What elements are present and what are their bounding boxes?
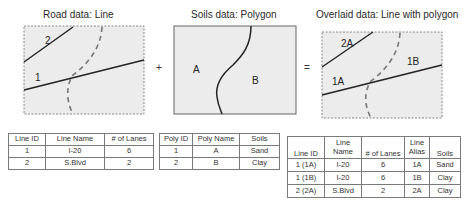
table-row: 1 (1A) I-20 6 1A Sand <box>288 159 461 172</box>
cell: Clay <box>430 172 461 185</box>
header-poly-id: Poly ID <box>160 134 193 146</box>
road-line-map: 2 1 <box>23 25 146 116</box>
cell: Sand <box>430 159 461 172</box>
overlay-map: 2A 1A 1B <box>321 31 444 120</box>
header-line-id: Line ID <box>9 134 46 146</box>
soils-label-B: B <box>252 75 259 86</box>
cell: B <box>193 158 240 170</box>
table-row: 1 A Sand <box>160 146 280 158</box>
poly-attribute-table: Poly ID Poly Name Soils 1 A Sand 2 B Cla… <box>159 133 280 170</box>
soils-label-A: A <box>193 64 200 75</box>
table-row: 2 (2A) S.Blvd 2 2A Clay <box>288 185 461 198</box>
header-line-name: Line Name <box>325 137 362 159</box>
overlay-label-2A: 2A <box>341 38 354 49</box>
cell: Clay <box>430 185 461 198</box>
road-label-1: 1 <box>35 72 41 83</box>
cell: I-20 <box>325 159 362 172</box>
cell: I-20 <box>46 146 105 158</box>
cell: S.Blvd <box>325 185 362 198</box>
header-line-name: Line Name <box>46 134 105 146</box>
overlay-attribute-table: Line ID Line Name # of Lanes Line Alias … <box>287 136 461 198</box>
cell: 1 (1B) <box>288 172 325 185</box>
overlay-panel-title: Overlaid data: Line with polygon <box>316 9 458 20</box>
cell: S.Blvd <box>46 158 105 170</box>
header-soils: Soils <box>430 137 461 159</box>
road-attribute-table: Line ID Line Name # of Lanes 1 I-20 6 2 … <box>8 133 154 170</box>
overlay-label-1B: 1B <box>407 56 420 67</box>
cell: 6 <box>105 146 154 158</box>
table-row: 2 B Clay <box>160 158 280 170</box>
cell: I-20 <box>325 172 362 185</box>
table-row: 1 I-20 6 <box>9 146 154 158</box>
cell: 2 (2A) <box>288 185 325 198</box>
cell: 2A <box>405 185 430 198</box>
cell: 6 <box>362 159 405 172</box>
cell: Sand <box>240 146 280 158</box>
cell: 2 <box>105 158 154 170</box>
header-lanes: # of Lanes <box>362 137 405 159</box>
cell: 2 <box>9 158 46 170</box>
soils-panel-title: Soils data: Polygon <box>191 9 277 20</box>
overlay-label-1A: 1A <box>332 76 345 87</box>
header-lanes: # of Lanes <box>105 134 154 146</box>
cell: 6 <box>362 172 405 185</box>
cell: Clay <box>240 158 280 170</box>
table-row: 1 (1B) I-20 6 1B Clay <box>288 172 461 185</box>
plus-operator: + <box>156 62 162 73</box>
header-poly-name: Poly Name <box>193 134 240 146</box>
cell: 1A <box>405 159 430 172</box>
equals-operator: = <box>304 62 310 73</box>
road-panel-title: Road data: Line <box>43 9 114 20</box>
header-soils: Soils <box>240 134 280 146</box>
cell: 1B <box>405 172 430 185</box>
table-header-row: Line ID Line Name # of Lanes Line Alias … <box>288 137 461 159</box>
header-line-id: Line ID <box>288 137 325 159</box>
table-header-row: Line ID Line Name # of Lanes <box>9 134 154 146</box>
table-header-row: Poly ID Poly Name Soils <box>160 134 280 146</box>
cell: 1 <box>9 146 46 158</box>
road-label-2: 2 <box>45 35 51 46</box>
cell: 1 <box>160 146 193 158</box>
cell: 1 (1A) <box>288 159 325 172</box>
cell: 2 <box>362 185 405 198</box>
soils-polygon-map: A B <box>173 25 298 116</box>
header-line-alias: Line Alias <box>405 137 430 159</box>
table-row: 2 S.Blvd 2 <box>9 158 154 170</box>
cell: A <box>193 146 240 158</box>
cell: 2 <box>160 158 193 170</box>
